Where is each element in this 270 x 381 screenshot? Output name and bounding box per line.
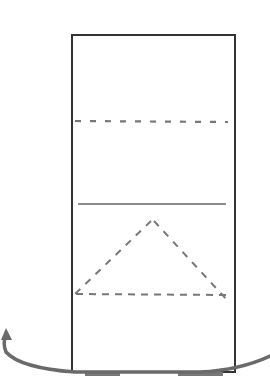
dashed-fold-line: [75, 121, 228, 122]
triangle-left-side: [75, 221, 151, 294]
triangle-right-side: [154, 221, 228, 301]
arrowhead-icon: [1, 328, 12, 340]
folding-diagram: [0, 0, 270, 381]
triangle-base: [76, 294, 226, 295]
rotation-arrow-icon: [4, 338, 270, 372]
